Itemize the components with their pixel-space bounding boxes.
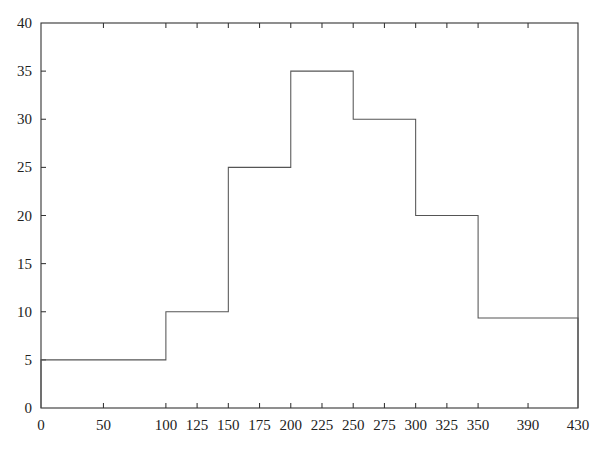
x-tick-label: 100: [155, 417, 178, 433]
x-tick-label: 430: [567, 417, 590, 433]
chart-canvas: 0510152025303540 05010012515017520022525…: [0, 0, 595, 449]
y-tick-label: 5: [25, 352, 33, 368]
x-tick-label: 350: [467, 417, 490, 433]
histogram-chart: 0510152025303540 05010012515017520022525…: [0, 0, 595, 449]
x-tick-label: 150: [217, 417, 240, 433]
x-tick-label: 275: [373, 417, 396, 433]
x-tick-label: 390: [517, 417, 540, 433]
x-tick-label: 225: [311, 417, 334, 433]
y-tick-label: 40: [17, 15, 32, 31]
x-tick-label: 0: [37, 417, 45, 433]
chart-background: [0, 0, 595, 449]
x-tick-label: 325: [436, 417, 459, 433]
y-tick-label: 30: [17, 111, 32, 127]
x-tick-label: 250: [342, 417, 365, 433]
x-tick-label: 125: [186, 417, 209, 433]
y-tick-label: 15: [17, 256, 32, 272]
y-tick-label: 20: [17, 208, 32, 224]
x-tick-label: 300: [404, 417, 427, 433]
y-tick-label: 10: [17, 304, 32, 320]
y-tick-label: 35: [17, 63, 32, 79]
x-tick-label: 200: [280, 417, 303, 433]
x-tick-label: 175: [248, 417, 271, 433]
x-tick-label: 50: [96, 417, 111, 433]
y-tick-label: 0: [25, 400, 33, 416]
y-tick-label: 25: [17, 159, 32, 175]
